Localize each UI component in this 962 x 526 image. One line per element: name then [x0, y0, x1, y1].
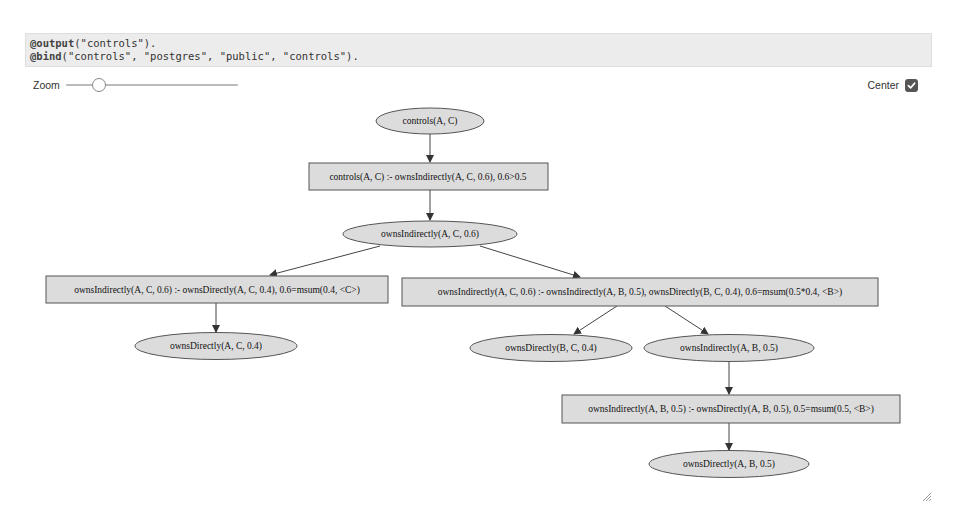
graph-nodes: controls(A, C) controls(A, C) :- ownsInd…	[46, 108, 900, 478]
svg-text:ownsIndirectly(A, C, 0.6): ownsIndirectly(A, C, 0.6)	[381, 229, 479, 240]
resize-handle-icon[interactable]	[922, 492, 932, 502]
edge-r3-n4	[574, 306, 617, 334]
rule-ownsindirectly-transitive[interactable]: ownsIndirectly(A, C, 0.6) :- ownsIndirec…	[402, 278, 878, 306]
node-ownsindirectly-ab[interactable]: ownsIndirectly(A, B, 0.5)	[644, 335, 814, 362]
svg-text:ownsDirectly(A, B, 0.5): ownsDirectly(A, B, 0.5)	[683, 459, 775, 470]
rule-ownsindirectly-direct[interactable]: ownsIndirectly(A, C, 0.6) :- ownsDirectl…	[46, 276, 388, 303]
node-ownsdirectly-bc[interactable]: ownsDirectly(B, C, 0.4)	[470, 335, 632, 362]
derivation-graph[interactable]: controls(A, C) controls(A, C) :- ownsInd…	[0, 0, 962, 526]
node-controls-ac[interactable]: controls(A, C)	[376, 108, 484, 134]
node-ownsdirectly-ab[interactable]: ownsDirectly(A, B, 0.5)	[649, 451, 809, 478]
svg-text:ownsIndirectly(A, C, 0.6) :- o: ownsIndirectly(A, C, 0.6) :- ownsDirectl…	[74, 285, 360, 296]
rule-controls[interactable]: controls(A, C) :- ownsIndirectly(A, C, 0…	[309, 163, 548, 190]
node-ownsdirectly-ac[interactable]: ownsDirectly(A, C, 0.4)	[135, 333, 297, 360]
svg-text:ownsIndirectly(A, B, 0.5) :- o: ownsIndirectly(A, B, 0.5) :- ownsDirectl…	[588, 404, 874, 415]
svg-text:ownsDirectly(A, C, 0.4): ownsDirectly(A, C, 0.4)	[170, 341, 262, 352]
edge-n2-r2	[270, 246, 380, 275]
rule-ownsindirectly-ab[interactable]: ownsIndirectly(A, B, 0.5) :- ownsDirectl…	[562, 395, 900, 423]
svg-text:ownsIndirectly(A, C, 0.6) :- o: ownsIndirectly(A, C, 0.6) :- ownsIndirec…	[438, 287, 842, 298]
svg-text:ownsIndirectly(A, B, 0.5): ownsIndirectly(A, B, 0.5)	[680, 343, 778, 354]
edge-r3-n5	[665, 306, 708, 334]
edge-n2-r3	[480, 246, 580, 277]
svg-text:controls(A, C) :- ownsIndirect: controls(A, C) :- ownsIndirectly(A, C, 0…	[329, 172, 526, 183]
node-ownsindirectly-ac[interactable]: ownsIndirectly(A, C, 0.6)	[343, 221, 517, 247]
svg-text:controls(A, C): controls(A, C)	[403, 116, 458, 127]
svg-text:ownsDirectly(B, C, 0.4): ownsDirectly(B, C, 0.4)	[505, 343, 597, 354]
